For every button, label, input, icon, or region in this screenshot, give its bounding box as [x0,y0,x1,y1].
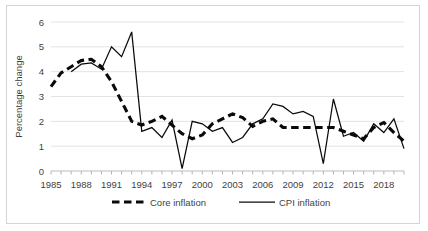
y-axis-tick-label: 3 [39,91,44,102]
x-axis-tick-label: 1985 [40,179,61,190]
x-axis-tick-label: 2006 [252,179,273,190]
legend-label-core-inflation: Core inflation [150,197,206,208]
legend-label-cpi-inflation: CPI inflation [279,197,330,208]
x-axis-tick-label: 2015 [343,179,364,190]
y-axis-tick-label: 2 [39,116,44,127]
y-axis-tick-label: 6 [39,17,44,28]
x-axis-tick-label: 2012 [313,179,334,190]
x-axis-tick-label: 2018 [373,179,394,190]
x-axis-tick-label: 2003 [222,179,243,190]
chart-container: 0123456198519881991199419972000200320062… [6,5,420,224]
y-axis-title: Percentage change [13,55,24,137]
y-axis-tick-label: 4 [39,66,44,77]
y-axis-tick-label: 0 [39,166,44,177]
x-axis-tick-label: 1994 [131,179,152,190]
x-axis-tick-label: 2009 [282,179,303,190]
x-axis-tick-label: 2000 [192,179,213,190]
x-axis-tick-label: 1997 [161,179,182,190]
y-axis-tick-label: 1 [39,141,44,152]
inflation-line-chart: 0123456198519881991199419972000200320062… [7,6,419,223]
y-axis-tick-label: 5 [39,41,44,52]
x-axis-tick-label: 1988 [71,179,92,190]
x-axis-tick-label: 1991 [101,179,122,190]
